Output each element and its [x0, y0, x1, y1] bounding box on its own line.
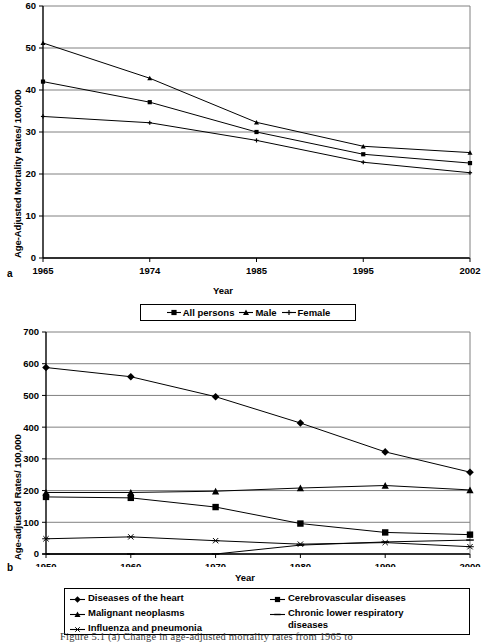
- legend-b: Diseases of the heartMalignant neoplasms…: [64, 588, 470, 635]
- x-tick-label: 1974: [139, 265, 161, 276]
- series-marker: [381, 448, 389, 456]
- legend-swatch: [166, 307, 182, 318]
- x-axis-title-a: Year: [163, 285, 283, 296]
- series-marker: [148, 121, 152, 125]
- x-tick-label: 1950: [35, 561, 56, 567]
- y-tick-label: 0: [31, 252, 36, 263]
- legend-label: Diseases of the heart: [86, 592, 184, 603]
- y-tick-label: 10: [25, 210, 36, 221]
- legend-swatch: [69, 607, 86, 620]
- legend-b-column-right: Cerebrovascular diseasesChronic lower re…: [269, 592, 469, 622]
- series-marker: [361, 160, 365, 164]
- y-tick-label: 400: [23, 422, 39, 433]
- series-marker: [466, 468, 474, 476]
- legend-item-chronic-lower-respiratory-diseases[interactable]: Chronic lower respiratory diseases: [269, 607, 469, 622]
- legend-item-male[interactable]: Male: [238, 307, 276, 318]
- series-marker: [212, 393, 220, 401]
- legend-swatch: [69, 592, 86, 605]
- legend-marker-square-icon: [269, 594, 286, 605]
- series-marker: [381, 540, 389, 545]
- legend-label: Female: [297, 307, 331, 318]
- legend-marker-triangle-icon: [69, 609, 86, 620]
- legend-item-all-persons[interactable]: All persons: [166, 307, 235, 318]
- y-tick-label: 200: [23, 485, 39, 496]
- series-marker: [212, 538, 220, 543]
- y-tick-label: 20: [25, 168, 36, 179]
- series-marker: [297, 419, 305, 427]
- legend-label: Cerebrovascular diseases: [286, 592, 406, 603]
- series-marker: [297, 542, 305, 547]
- series-marker: [127, 373, 135, 381]
- series-marker: [41, 41, 46, 46]
- legend-marker-diamond-icon: [69, 594, 86, 605]
- series-line: [46, 486, 470, 493]
- series-line: [46, 368, 470, 473]
- y-tick-label: 500: [23, 390, 39, 401]
- legend-a-row: All personsMaleFemale: [164, 307, 333, 318]
- x-tick-label: 1995: [353, 265, 375, 276]
- plot-area-b: 0100200300400500600700195019601970198019…: [0, 322, 487, 567]
- legend-marker-triangle-icon: [238, 307, 254, 318]
- legend-marker-dash-icon: [269, 609, 286, 620]
- y-tick-label: 700: [23, 326, 39, 337]
- x-tick-label: 2000: [459, 561, 480, 567]
- x-tick-label: 1990: [375, 561, 396, 567]
- legend-swatch: [269, 592, 286, 605]
- panel-label-b: b: [7, 562, 13, 573]
- x-tick-label: 1985: [246, 265, 268, 276]
- y-tick-label: 300: [23, 453, 39, 464]
- y-tick-label: 600: [23, 358, 39, 369]
- legend-item-cerebrovascular-diseases[interactable]: Cerebrovascular diseases: [269, 592, 469, 607]
- series-marker: [41, 114, 45, 118]
- legend-swatch: [281, 307, 297, 318]
- x-tick-label: 1980: [290, 561, 311, 567]
- series-line: [46, 497, 470, 535]
- panel-label-a: a: [7, 268, 13, 279]
- line-chart-a: 010203040506019651974198519952002: [0, 0, 487, 290]
- legend-item-female[interactable]: Female: [281, 307, 331, 318]
- y-tick-label: 100: [23, 517, 39, 528]
- x-tick-label: 1965: [32, 265, 54, 276]
- legend-label: All persons: [182, 307, 235, 318]
- series-marker: [148, 100, 152, 104]
- series-marker: [297, 520, 303, 526]
- y-tick-label: 60: [25, 0, 36, 11]
- figure-caption: Figure 5.1 (a) Change in age-adjusted mo…: [60, 631, 480, 642]
- x-axis-title-b: Year: [200, 572, 290, 583]
- series-marker: [127, 534, 135, 539]
- series-marker: [254, 120, 259, 125]
- legend-a: All personsMaleFemale: [140, 304, 356, 321]
- series-marker: [42, 364, 50, 372]
- legend-label: Malignant neoplasms: [86, 607, 185, 618]
- series-marker: [41, 80, 45, 84]
- x-tick-label: 1960: [120, 561, 141, 567]
- series-marker: [467, 531, 473, 537]
- legend-marker-plus-icon: [281, 307, 297, 318]
- legend-item-diseases-of-the-heart[interactable]: Diseases of the heart: [69, 592, 269, 607]
- legend-item-malignant-neoplasms[interactable]: Malignant neoplasms: [69, 607, 269, 622]
- legend-swatch: [238, 307, 254, 318]
- legend-label: Chronic lower respiratory diseases: [286, 607, 408, 630]
- y-tick-label: 30: [25, 126, 36, 137]
- series-marker: [468, 161, 472, 165]
- series-marker: [382, 529, 388, 535]
- legend-marker-square-icon: [166, 307, 182, 318]
- plot-area-a: 010203040506019651974198519952002: [0, 0, 487, 290]
- series-line: [43, 116, 470, 172]
- line-chart-b: 0100200300400500600700195019601970198019…: [0, 322, 487, 567]
- y-tick-label: 0: [34, 548, 39, 559]
- y-tick-label: 40: [25, 84, 36, 95]
- legend-swatch: [269, 607, 286, 620]
- legend-label: Male: [254, 307, 276, 318]
- series-marker: [254, 130, 258, 134]
- x-tick-label: 1970: [205, 561, 226, 567]
- series-line: [43, 43, 470, 153]
- series-marker: [361, 152, 365, 156]
- series-marker: [254, 138, 258, 142]
- y-tick-label: 50: [25, 42, 36, 53]
- x-tick-label: 2002: [459, 265, 480, 276]
- chart-panel-a: Age-Adjusted Mortality Rates/ 100,000 01…: [0, 0, 487, 322]
- series-marker: [212, 504, 218, 510]
